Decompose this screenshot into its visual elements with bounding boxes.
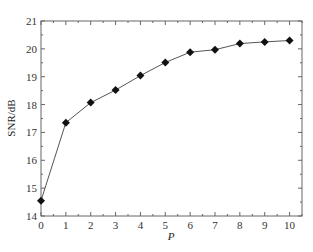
y-tick-label: 19 <box>26 71 38 83</box>
diamond-marker <box>286 37 294 45</box>
y-tick-label: 18 <box>26 99 38 111</box>
diamond-marker <box>37 197 45 205</box>
plot-border <box>41 21 302 216</box>
diamond-marker <box>186 48 194 56</box>
x-tick-label: 3 <box>113 219 119 231</box>
diamond-marker <box>261 38 269 46</box>
diamond-marker <box>112 86 120 94</box>
x-tick-label: 1 <box>63 219 69 231</box>
y-tick-label: 16 <box>26 154 38 166</box>
x-tick-label: 7 <box>212 219 218 231</box>
diamond-marker <box>236 40 244 48</box>
x-axis-title: P <box>167 230 175 242</box>
diamond-marker <box>136 72 144 80</box>
plot-frame <box>41 21 302 216</box>
x-tick-label: 4 <box>138 219 144 231</box>
y-tick-label: 21 <box>26 15 37 27</box>
data-series-markers <box>37 37 294 205</box>
y-tick-label: 15 <box>26 182 38 194</box>
y-axis-tick-labels: 1415161718192021 <box>26 15 38 222</box>
line-chart: 012345678910 1415161718192021 P SNR/dB <box>0 0 313 252</box>
y-tick-label: 17 <box>26 126 38 138</box>
y-tick-label: 20 <box>26 43 38 55</box>
axis-ticks <box>41 21 302 216</box>
x-tick-label: 0 <box>38 219 44 231</box>
diamond-marker <box>161 59 169 67</box>
diamond-marker <box>211 46 219 54</box>
x-tick-label: 2 <box>88 219 94 231</box>
x-tick-label: 10 <box>284 219 296 231</box>
x-tick-label: 9 <box>262 219 268 231</box>
x-tick-label: 8 <box>237 219 243 231</box>
x-tick-label: 6 <box>187 219 193 231</box>
y-tick-label: 14 <box>26 210 38 222</box>
y-axis-title: SNR/dB <box>5 99 17 136</box>
